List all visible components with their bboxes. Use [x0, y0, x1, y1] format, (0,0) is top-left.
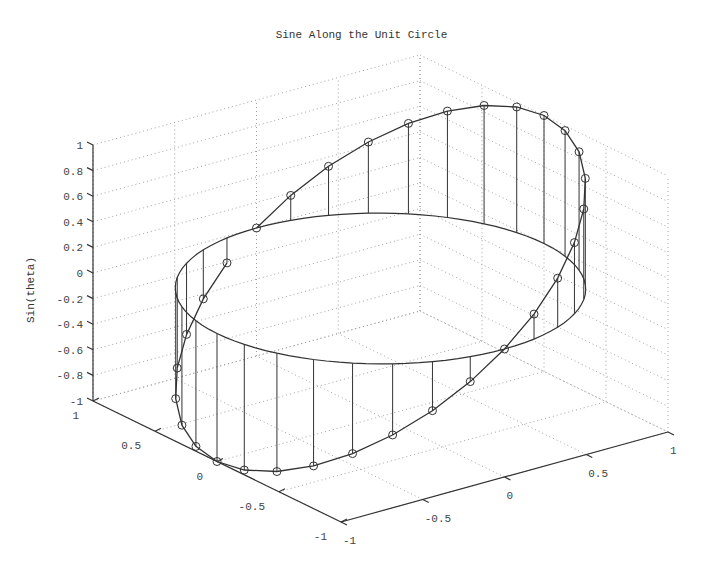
x-tick: [586, 455, 592, 458]
z-tick-label: -0.8: [57, 370, 83, 382]
z-tick-label: 0.2: [63, 242, 83, 254]
y-tick: [155, 428, 161, 431]
z-tick: [87, 168, 93, 171]
z-tick: [87, 372, 93, 375]
z-tick: [87, 244, 93, 247]
z-tick-label: -0.2: [57, 294, 83, 306]
data-markers: [172, 101, 590, 475]
z-tick: [87, 193, 93, 196]
z-tick: [87, 219, 93, 222]
grid-line: [93, 260, 420, 350]
x-tick: [341, 522, 347, 525]
z-tick-label: -0.6: [57, 345, 83, 357]
z-tick-label: 0.6: [63, 191, 83, 203]
stem-lines: [176, 105, 586, 471]
x-tick-label: 0.5: [588, 468, 608, 480]
x-tick: [505, 477, 511, 480]
sine-curve: [176, 106, 586, 472]
y-tick-label: 0.5: [121, 440, 141, 452]
grid-line: [217, 372, 544, 462]
z-tick: [87, 347, 93, 350]
grid-line: [338, 334, 586, 455]
z-tick-label: 1: [76, 140, 83, 152]
z-tick-label: -1: [70, 396, 84, 408]
z-tick: [87, 296, 93, 299]
z-tick: [87, 321, 93, 324]
y-tick-label: 0: [196, 471, 203, 483]
grid-line: [93, 157, 420, 247]
z-tick: [87, 270, 93, 273]
grid-line: [257, 356, 505, 477]
x-tick-label: 1: [670, 445, 677, 457]
z-tick-label: 0.4: [63, 217, 83, 229]
x-tick-label: 0: [507, 490, 514, 502]
z-tick-label: 0.8: [63, 166, 83, 178]
z-tick-label: 0: [76, 268, 83, 280]
z-tick: [87, 142, 93, 145]
grid-line: [420, 285, 668, 406]
grid-line: [93, 81, 420, 171]
y-tick-label: 1: [72, 410, 79, 422]
grid-lines: [93, 55, 668, 522]
y-tick: [279, 489, 285, 492]
unit-circle-reference: [175, 213, 585, 364]
sine-curve-path: [176, 106, 586, 472]
z-tick: [87, 398, 93, 401]
reference-circle: [175, 213, 585, 364]
y-tick-label: -0.5: [239, 501, 265, 513]
x-tick-label: -0.5: [425, 513, 451, 525]
x-tick: [668, 432, 674, 435]
y-tick: [93, 398, 99, 401]
x-tick-label: -1: [343, 535, 357, 547]
grid-line: [93, 285, 420, 375]
x-tick: [423, 500, 429, 503]
z-tick-label: -0.4: [57, 319, 84, 331]
grid-line: [93, 209, 420, 299]
chart-3d-plot: -1-0.8-0.6-0.4-0.200.20.40.60.81-1-0.500…: [0, 0, 723, 580]
y-tick-label: -1: [314, 531, 328, 543]
